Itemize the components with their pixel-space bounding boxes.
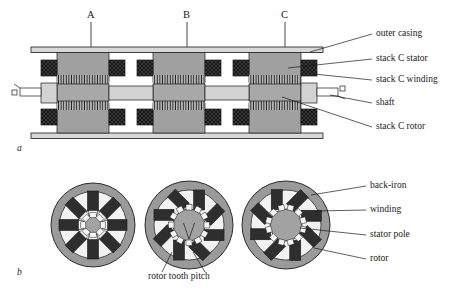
motor-diagram	[0, 0, 465, 295]
callout-winding: winding	[370, 205, 401, 215]
callout-stack-c-winding: stack C winding	[376, 75, 438, 85]
stack-label-a: A	[87, 10, 95, 21]
callout-shaft: shaft	[376, 98, 394, 108]
part-a-cutaway	[12, 22, 372, 139]
callout-rotor-tooth-pitch: rotor tooth pitch	[148, 272, 210, 282]
cross-section-c	[237, 176, 335, 274]
subfigure-label-b: b	[17, 268, 22, 278]
callout-stator-pole: stator pole	[370, 230, 410, 240]
callout-outer-casing: outer casing	[376, 29, 422, 39]
stack-label-b: B	[183, 10, 190, 21]
figure-root: A B C outer casing stack C stator stack …	[0, 0, 465, 295]
callout-stack-c-rotor: stack C rotor	[376, 122, 425, 132]
cross-section-b	[139, 175, 239, 275]
callout-back-iron: back-iron	[370, 181, 406, 191]
stack-leader-lines	[91, 22, 285, 47]
rotor-section-a	[81, 213, 105, 237]
callout-rotor: rotor	[370, 254, 388, 264]
callout-stack-c-stator: stack C stator	[376, 54, 428, 64]
subfigure-label-a: a	[17, 144, 22, 154]
rotor-section-c	[265, 204, 306, 245]
cross-section-a	[51, 183, 135, 267]
stack-label-c: C	[281, 10, 288, 21]
